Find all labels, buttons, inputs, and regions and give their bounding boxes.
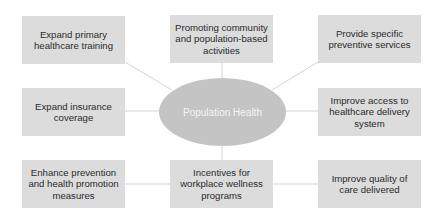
- node-label: Expand insurance coverage: [25, 101, 122, 124]
- population-health-diagram: Expand primary healthcare training Promo…: [0, 0, 440, 216]
- node-top-center: Promoting community and population-based…: [170, 15, 273, 63]
- node-label: Improve quality of care delivered: [321, 173, 418, 196]
- node-top-right: Provide specific preventive services: [318, 15, 421, 63]
- center-ellipse: Population Health: [159, 78, 286, 146]
- node-label: Expand primary healthcare training: [25, 29, 122, 52]
- node-label: Improve access to healthcare delivery sy…: [321, 95, 418, 130]
- node-middle-left: Expand insurance coverage: [22, 88, 125, 136]
- node-label: Promoting community and population-based…: [173, 22, 270, 57]
- node-label: Incentives for workplace wellness progra…: [173, 167, 270, 202]
- node-bottom-right: Improve quality of care delivered: [318, 160, 421, 208]
- node-label: Provide specific preventive services: [321, 28, 418, 51]
- node-middle-right: Improve access to healthcare delivery sy…: [318, 88, 421, 136]
- connector-top-left: [125, 62, 172, 90]
- node-bottom-center: Incentives for workplace wellness progra…: [170, 160, 273, 208]
- connector-top-right: [272, 62, 318, 90]
- node-bottom-left: Enhance prevention and health promotion …: [22, 160, 125, 208]
- node-label: Enhance prevention and health promotion …: [25, 167, 122, 202]
- node-top-left: Expand primary healthcare training: [22, 16, 125, 64]
- center-label: Population Health: [183, 107, 262, 118]
